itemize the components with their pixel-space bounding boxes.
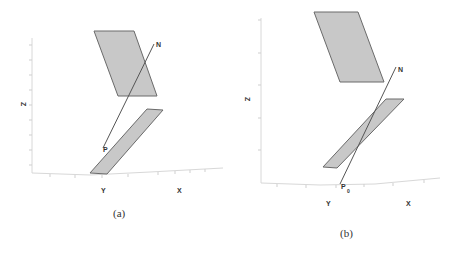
x-axis-label-a: X <box>177 187 182 194</box>
caption-a: (a) <box>113 207 126 220</box>
y-axis-label-b: Y <box>326 200 331 207</box>
point-label-a: P <box>103 146 108 153</box>
point-label-b: P <box>341 183 346 190</box>
figure-canvas: N P Z Y X (a) N P 0 Z Y <box>0 0 461 254</box>
base-axis-a <box>32 168 223 175</box>
normal-label-b: N <box>398 66 403 73</box>
point-subscript-b: 0 <box>347 188 350 194</box>
panel-b: N P 0 Z Y X (b) <box>244 12 440 240</box>
x-axis-label-b: X <box>406 200 411 207</box>
z-axis-label-a: Z <box>20 102 27 107</box>
z-axis-label-b: Z <box>244 97 251 102</box>
normal-vector-b <box>340 67 396 184</box>
base-axis-b <box>261 178 440 185</box>
lower-plane-a <box>90 109 163 174</box>
normal-label-a: N <box>156 41 161 48</box>
upper-plane-b <box>314 12 384 82</box>
lower-plane-b <box>323 99 404 168</box>
caption-b: (b) <box>340 227 353 240</box>
upper-plane-a <box>94 31 157 96</box>
panel-a: N P Z Y X (a) <box>20 31 223 220</box>
y-axis-label-a: Y <box>101 187 106 194</box>
